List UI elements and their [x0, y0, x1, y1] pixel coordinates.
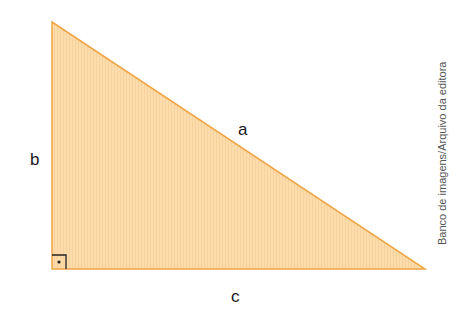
label-leg-b: b — [30, 151, 39, 168]
label-hypotenuse-a: a — [238, 121, 247, 138]
image-credit: Banco de imagens/Arquivo da editora — [436, 62, 448, 245]
label-leg-c: c — [231, 288, 240, 305]
right-triangle — [52, 22, 425, 269]
triangle-diagram — [0, 0, 465, 317]
